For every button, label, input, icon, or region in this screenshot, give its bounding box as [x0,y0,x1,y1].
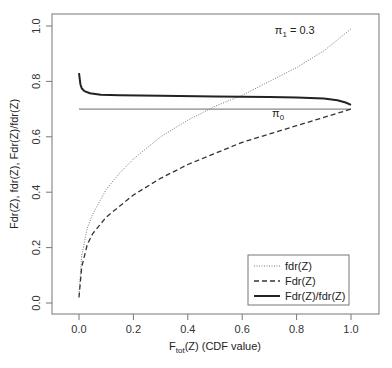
y-tick-label: 0.2 [30,240,42,255]
y-tick-label: 0.4 [30,185,42,200]
y-tick-label: 0.0 [30,295,42,310]
chart: 0.00.20.40.60.81.0 0.00.20.40.60.81.0 π1… [0,0,392,368]
x-axis-title: Ftot(Z) (CDF value) [169,340,261,355]
x-tick-label: 0.0 [71,323,86,335]
y-tick-label: 1.0 [30,18,42,33]
y-axis-title: Fdr(Z), fdr(Z), Fdr(Z)/fdr(Z) [8,99,20,229]
annotation-π1: π1 = 0.3 [275,24,315,39]
x-tick-label: 0.4 [180,323,195,335]
legend: fdr(Z)Fdr(Z)Fdr(Z)/fdr(Z) [248,255,349,305]
x-axis: 0.00.20.40.60.81.0 [71,314,358,335]
y-tick-label: 0.8 [30,74,42,89]
legend-label: fdr(Z) [285,260,312,272]
x-tick-label: 0.6 [235,323,250,335]
legend-label: Fdr(Z)/fdr(Z) [285,290,345,302]
x-tick-label: 1.0 [343,323,358,335]
x-tick-label: 0.8 [289,323,304,335]
x-tick-label: 0.2 [126,323,141,335]
annotations: π1 = 0.3π0 [272,24,315,122]
y-axis: 0.00.20.40.60.81.0 [30,18,52,310]
series-solid-line [79,73,351,105]
legend-label: Fdr(Z) [285,275,316,287]
y-tick-label: 0.6 [30,129,42,144]
